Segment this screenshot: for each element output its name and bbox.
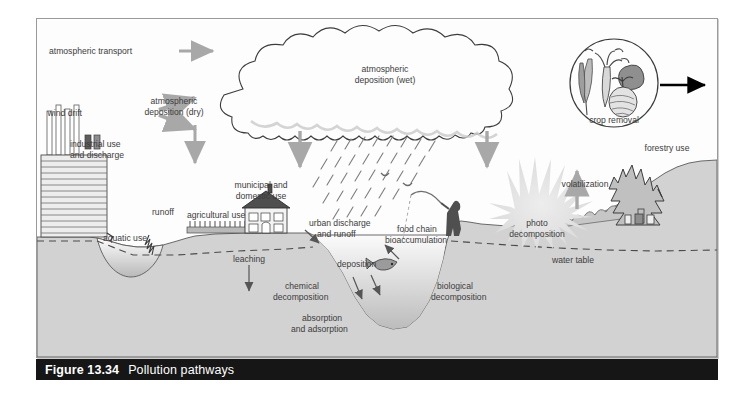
label-biological-decomposition-line2: decomposition (431, 292, 487, 302)
label-food-chain-line1: food chain (397, 224, 437, 234)
label-wet-deposition-line1: atmospheric (362, 64, 410, 74)
crop-removal-badge (570, 39, 658, 127)
figure-frame: atmospheric transport wind drift atmosph… (36, 18, 718, 358)
label-photo-decomposition-line1: photo (526, 218, 548, 228)
figure-number: Figure 13.34 (45, 363, 119, 377)
label-industrial-use-line1: industrial use (70, 139, 121, 149)
label-industrial-use-line2: and discharge (70, 150, 124, 160)
label-food-chain-line2: bioaccumulation (385, 235, 447, 245)
label-water-table: water table (551, 255, 594, 265)
label-absorption-line1: absorption (302, 313, 342, 323)
label-crop-removal: crop removal (589, 115, 639, 125)
label-urban-discharge-line2: and runoff (317, 229, 356, 239)
label-forestry-use: forestry use (645, 143, 690, 153)
label-wet-deposition-line2: deposition (wet) (355, 75, 416, 85)
label-deposition: deposition (337, 259, 376, 269)
label-absorption-line2: and adsorption (291, 324, 348, 334)
figure-title: Pollution pathways (128, 363, 234, 377)
label-wind-drift: wind drift (47, 108, 83, 118)
label-chemical-decomposition-line2: decomposition (273, 292, 329, 302)
label-dry-deposition-line2: deposition (dry) (144, 107, 203, 117)
label-dry-deposition-line1: atmospheric (151, 96, 199, 106)
label-aquatic-use: aquatic use (103, 233, 147, 243)
tree-stumps-icon (625, 214, 654, 224)
figure-caption-bar: Figure 13.34 Pollution pathways (36, 359, 718, 380)
figure-page: atmospheric transport wind drift atmosph… (0, 0, 733, 403)
label-chemical-decomposition-line1: chemical (285, 281, 319, 291)
label-leaching: leaching (233, 254, 265, 264)
label-atmospheric-transport: atmospheric transport (49, 46, 133, 56)
pollution-pathways-illustration: atmospheric transport wind drift atmosph… (37, 19, 717, 357)
label-volatilization: volatilization (562, 179, 609, 189)
label-municipal-use-line1: municipal and (234, 180, 287, 190)
label-agricultural-use: agricultural use (187, 210, 245, 220)
label-biological-decomposition-line1: biological (437, 281, 473, 291)
label-urban-discharge-line1: urban discharge (309, 218, 371, 228)
label-municipal-use-line2: domestic use (236, 191, 287, 201)
label-runoff: runoff (152, 207, 174, 217)
label-photo-decomposition-line2: decomposition (509, 229, 565, 239)
